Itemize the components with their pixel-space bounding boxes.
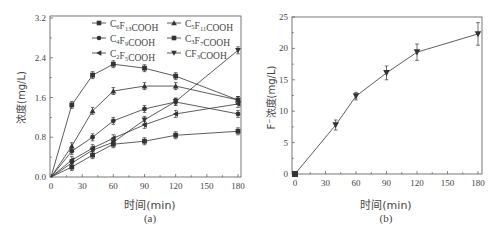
marker-square-icon: [172, 36, 177, 41]
series-line: [51, 86, 238, 177]
legend-item: C2F5COOH: [92, 49, 155, 63]
figure: 03060901201501800.00.81.62.43.2C6F13COOH…: [0, 0, 499, 238]
marker-triangle-down-icon: [475, 31, 482, 37]
x-tick-label: 0: [49, 181, 54, 191]
marker-triangle-down-icon: [414, 49, 421, 55]
legend-item: C4F9COOH: [92, 34, 155, 48]
chart-b-xlabel: 时间(min): [336, 196, 436, 212]
legend-label: CF3COOH: [185, 49, 227, 61]
marker-square-icon: [142, 66, 147, 71]
y-tick-label: 3.2: [35, 13, 46, 23]
marker-square-icon: [173, 133, 178, 138]
legend-label: C3F7COOH: [185, 34, 230, 48]
y-axis: 0510152025: [279, 12, 295, 179]
chart-a-ylabel: 浓度(mg/L): [13, 58, 28, 138]
marker-square-icon: [236, 129, 241, 134]
series-line: [295, 34, 478, 174]
legend-item: CF3COOH: [167, 49, 227, 61]
chart-a-xlabel: 时间(min): [100, 196, 200, 212]
legend-label: C5F11COOH: [185, 19, 233, 33]
x-tick-label: 120: [169, 181, 183, 191]
series-C3F7COOH: [51, 128, 240, 177]
marker-square-icon: [111, 62, 116, 67]
y-tick-label: 0.0: [35, 172, 47, 182]
x-tick-label: 90: [382, 178, 392, 188]
plot-frame: [292, 17, 482, 174]
marker-square-icon: [142, 139, 147, 144]
y-tick-label: 0.8: [35, 132, 47, 142]
legend-item: C5F11COOH: [167, 19, 233, 33]
legend-label: C2F5COOH: [110, 49, 155, 63]
origin-marker: [292, 171, 298, 177]
legend-label: C6F13COOH: [110, 19, 158, 33]
x-tick-label: 30: [78, 181, 88, 191]
y-tick-label: 1.6: [35, 93, 47, 103]
series-C2F5COOH: [51, 100, 240, 177]
x-tick-label: 90: [140, 181, 150, 191]
y-tick-label: 5: [284, 138, 289, 148]
marker-square-icon: [69, 103, 74, 108]
chart-a-caption: (a): [125, 212, 175, 224]
marker-circle-icon: [142, 107, 147, 112]
y-tick-label: 2.4: [35, 53, 47, 63]
chart-panel-b: 03060901201501800510152025: [279, 12, 485, 188]
x-tick-label: 0: [293, 178, 298, 188]
marker-circle-icon: [111, 118, 116, 123]
marker-square-icon: [97, 21, 102, 26]
x-axis: 0306090120150180: [293, 171, 486, 188]
chart-b-ylabel: F⁻浓度(mg/L): [263, 53, 278, 143]
legend-item: C6F13COOH: [92, 19, 158, 33]
y-tick-label: 15: [279, 75, 289, 85]
x-tick-label: 180: [471, 178, 485, 188]
x-tick-label: 30: [321, 178, 331, 188]
marker-circle-icon: [236, 111, 241, 116]
chart-a-legend: C6F13COOHC5F11COOHC4F9COOHC3F7COOHC2F5CO…: [92, 19, 233, 63]
series-F-: [292, 23, 481, 177]
x-tick-label: 180: [231, 181, 245, 191]
marker-circle-icon: [90, 135, 95, 140]
x-tick-label: 120: [410, 178, 424, 188]
marker-triangle-down-icon: [353, 93, 360, 99]
chart-b-caption: (b): [361, 212, 411, 224]
x-axis: 0306090120150180: [49, 174, 246, 191]
x-tick-label: 150: [441, 178, 455, 188]
marker-circle-icon: [97, 36, 102, 41]
x-tick-label: 60: [109, 181, 119, 191]
marker-square-icon: [173, 74, 178, 79]
marker-triangle-left-icon: [96, 50, 101, 56]
marker-triangle-down-icon: [142, 117, 148, 122]
x-tick-label: 150: [200, 181, 214, 191]
y-tick-label: 20: [279, 43, 289, 53]
marker-circle-icon: [69, 149, 74, 154]
y-tick-label: 25: [279, 12, 289, 22]
chart-panel-a: 03060901201501800.00.81.62.43.2C6F13COOH…: [35, 13, 246, 191]
legend-label: C4F9COOH: [110, 34, 155, 48]
y-tick-label: 10: [279, 106, 289, 116]
x-tick-label: 60: [352, 178, 362, 188]
y-tick-label: 0: [284, 169, 289, 179]
marker-square-icon: [90, 73, 95, 78]
marker-triangle-down-icon: [383, 70, 390, 76]
legend-item: C3F7COOH: [167, 34, 230, 48]
